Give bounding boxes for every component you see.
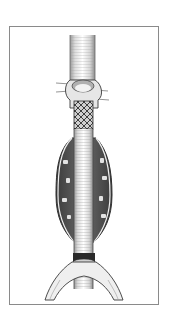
aorta-upper [70, 35, 95, 82]
proximal-stent [74, 101, 93, 129]
stent-graft-illustration [0, 0, 171, 321]
